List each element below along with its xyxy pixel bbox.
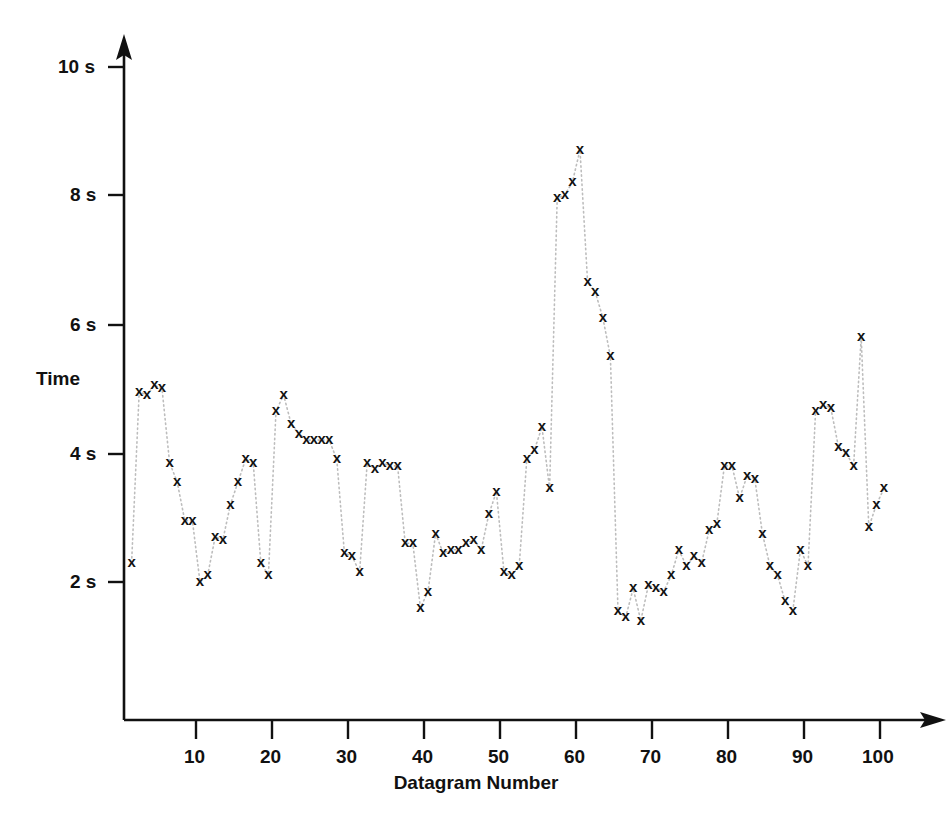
data-point-marker: x — [530, 440, 539, 457]
data-point-marker: x — [158, 378, 167, 395]
data-point-marker: x — [675, 540, 684, 557]
data-point-marker: x — [872, 495, 881, 512]
data-point-marker: x — [865, 517, 874, 534]
data-point-marker: x — [165, 453, 174, 470]
data-point-marker: x — [796, 540, 805, 557]
data-point-marker: x — [789, 601, 798, 618]
data-point-marker: x — [576, 140, 585, 157]
data-point-marker: x — [477, 540, 486, 557]
x-tick-label-90: 90 — [792, 746, 813, 768]
data-point-marker: x — [203, 565, 212, 582]
x-tick-label-50: 50 — [488, 746, 509, 768]
x-tick-label-100: 100 — [862, 746, 894, 768]
data-point-marker: x — [751, 469, 760, 486]
x-axis — [124, 712, 946, 728]
x-tick-label-30: 30 — [336, 746, 357, 768]
data-point-marker: x — [219, 530, 228, 547]
data-point-marker: x — [424, 582, 433, 599]
data-point-marker: x — [659, 582, 668, 599]
data-point-marker: x — [355, 562, 364, 579]
x-tick-label-20: 20 — [260, 746, 281, 768]
data-point-marker: x — [849, 456, 858, 473]
data-point-marker: x — [393, 456, 402, 473]
data-point-marker: x — [568, 172, 577, 189]
data-point-marker: x — [606, 346, 615, 363]
data-point-marker: x — [621, 607, 630, 624]
data-point-marker: x — [188, 511, 197, 528]
chart-canvas: xxxxxxxxxxxxxxxxxxxxxxxxxxxxxxxxxxxxxxxx… — [0, 0, 952, 832]
data-point-marker: x — [431, 524, 440, 541]
data-point-marker: x — [485, 504, 494, 521]
x-tick-label-10: 10 — [184, 746, 205, 768]
x-axis-title: Datagram Number — [0, 772, 952, 794]
data-point-marker: x — [629, 578, 638, 595]
data-point-marker: x — [697, 553, 706, 570]
y-tick-label-6: 6 s — [70, 314, 96, 336]
y-tick-label-8: 8 s — [70, 184, 96, 206]
y-axis — [116, 34, 132, 720]
x-axis-ticks — [196, 720, 880, 739]
x-tick-label-60: 60 — [564, 746, 585, 768]
data-point-marker: x — [880, 478, 889, 495]
data-point-marker: x — [515, 556, 524, 573]
data-point-marker: x — [173, 472, 182, 489]
data-point-marker: x — [599, 308, 608, 325]
x-tick-label-80: 80 — [716, 746, 737, 768]
data-point-marker: x — [827, 398, 836, 415]
data-point-marker: x — [234, 472, 243, 489]
data-point-marker: x — [272, 401, 281, 418]
data-point-marker: x — [249, 453, 258, 470]
data-point-marker: x — [226, 495, 235, 512]
data-point-marker: x — [773, 565, 782, 582]
y-axis-title: Time — [36, 368, 80, 390]
data-point-marker: x — [713, 514, 722, 531]
y-tick-label-2: 2 s — [70, 571, 96, 593]
x-tick-label-70: 70 — [640, 746, 661, 768]
y-axis-ticks — [108, 67, 124, 582]
series-markers: xxxxxxxxxxxxxxxxxxxxxxxxxxxxxxxxxxxxxxxx… — [127, 140, 888, 628]
data-point-marker: x — [735, 488, 744, 505]
data-point-marker: x — [538, 417, 547, 434]
data-point-marker: x — [591, 282, 600, 299]
data-point-marker: x — [348, 546, 357, 563]
data-point-marker: x — [127, 553, 136, 570]
data-point-marker: x — [545, 478, 554, 495]
data-point-marker: x — [325, 430, 334, 447]
y-tick-label-4: 4 s — [70, 443, 96, 465]
data-point-marker: x — [728, 456, 737, 473]
data-point-marker: x — [264, 565, 273, 582]
data-point-marker: x — [857, 327, 866, 344]
data-point-marker: x — [409, 533, 418, 550]
data-point-marker: x — [667, 565, 676, 582]
y-tick-label-10: 10 s — [58, 56, 95, 78]
series-connector-line — [132, 150, 884, 621]
scatter-chart: xxxxxxxxxxxxxxxxxxxxxxxxxxxxxxxxxxxxxxxx… — [0, 0, 952, 832]
data-point-marker: x — [333, 449, 342, 466]
data-point-marker: x — [637, 611, 646, 628]
data-point-marker: x — [279, 385, 288, 402]
data-point-marker: x — [492, 482, 501, 499]
data-point-marker: x — [758, 524, 767, 541]
x-tick-label-40: 40 — [412, 746, 433, 768]
data-point-marker: x — [804, 556, 813, 573]
data-point-marker: x — [416, 598, 425, 615]
